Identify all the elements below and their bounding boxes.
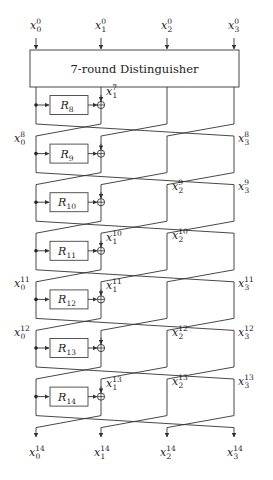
- distinguisher-title: 7-round Distinguisher: [70, 62, 199, 76]
- xor-icon: [97, 101, 104, 108]
- cross-wire: [36, 270, 234, 282]
- wire-label-x1-11: x111: [106, 277, 122, 294]
- output-label-x1: x141: [94, 444, 110, 461]
- feistel-diagram: x00x01x02x03 7-round Distinguisher R8x71…: [0, 0, 273, 480]
- wire-label-x2-10: x102: [172, 227, 188, 244]
- round-10: R10x92x93: [34, 178, 249, 233]
- xor-icon: [97, 344, 104, 351]
- wire-label-x1-7: x71: [106, 83, 117, 100]
- xor-icon: [97, 199, 104, 206]
- rounds: R8x71R9x80x83R10x92x93R11x101x102R12x110…: [14, 83, 254, 437]
- wire-label-x3-13: x133: [238, 373, 254, 390]
- wire-label-x0-8: x80: [14, 130, 25, 147]
- input-label-x3: x03: [228, 17, 239, 34]
- output-label-x3: x143: [227, 444, 243, 461]
- wire-label-x0-11: x110: [14, 275, 30, 292]
- round-13: R13x120x122x123: [14, 324, 254, 379]
- round-14: R14x131x132x133: [34, 373, 254, 437]
- wire-label-x3-12: x123: [238, 324, 254, 341]
- wire-label-x2-12: x122: [172, 324, 188, 341]
- round-11: R11x101x102: [34, 227, 234, 282]
- cross-wire: [36, 124, 234, 136]
- input-arrows: [36, 38, 234, 49]
- wire-label-x3-8: x83: [238, 130, 249, 147]
- output-label-x0: x140: [29, 444, 45, 461]
- cross-wire: [36, 318, 234, 330]
- cross-wire: [36, 416, 234, 428]
- input-label-x1: x01: [95, 17, 106, 34]
- round-9: R9x80x83: [14, 130, 249, 185]
- cross-wire: [36, 221, 234, 233]
- round-12: R12x110x111x113: [14, 275, 254, 330]
- wire-label-x1-10: x101: [106, 229, 122, 246]
- round-8: R8x71: [34, 83, 234, 136]
- input-label-x2: x02: [161, 17, 172, 34]
- wire-label-x2-9: x92: [172, 178, 183, 195]
- xor-icon: [97, 296, 104, 303]
- wire-label-x2-13: x132: [172, 373, 188, 390]
- cross-wire: [36, 173, 234, 185]
- xor-icon: [97, 150, 104, 157]
- output-label-x2: x142: [160, 444, 176, 461]
- input-labels: x00x01x02x03: [30, 17, 239, 34]
- wire-label-x1-13: x131: [106, 375, 122, 392]
- wire-label-x3-9: x93: [238, 178, 249, 195]
- input-label-x0: x00: [30, 17, 41, 34]
- xor-icon: [97, 247, 104, 254]
- wire-label-x3-11: x113: [238, 275, 254, 292]
- wire-label-x0-12: x120: [14, 324, 30, 341]
- xor-icon: [97, 393, 104, 400]
- output-labels: x140x141x142x143: [29, 444, 243, 461]
- cross-wire: [36, 367, 234, 379]
